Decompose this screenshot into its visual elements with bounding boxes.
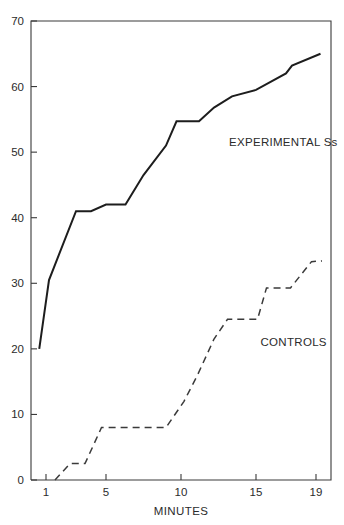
- y-tick-label-70: 70: [11, 15, 24, 27]
- y-axis-ticks: [31, 21, 37, 480]
- x-tick-label-19: 19: [310, 486, 323, 498]
- y-tick-label-0: 0: [18, 474, 24, 486]
- y-tick-label-20: 20: [11, 343, 24, 355]
- x-tick-label-10: 10: [175, 486, 188, 498]
- y-tick-label-60: 60: [11, 81, 24, 93]
- y-tick-label-30: 30: [11, 277, 24, 289]
- x-axis-title: MINUTES: [154, 505, 209, 517]
- series-line-experimental: [39, 54, 320, 349]
- x-tick-label-15: 15: [250, 486, 263, 498]
- line-chart-figure: 010203040506070 15101519 EXPERIMENTAL Ss…: [0, 0, 344, 525]
- plot-frame: [31, 21, 331, 480]
- y-axis-tick-labels: 010203040506070: [11, 15, 24, 486]
- series-label-experimental: EXPERIMENTAL Ss: [229, 136, 338, 148]
- y-tick-label-40: 40: [11, 212, 24, 224]
- x-axis-tick-labels: 15101519: [43, 486, 323, 498]
- x-tick-label-5: 5: [103, 486, 109, 498]
- x-axis-ticks: [46, 474, 316, 480]
- x-tick-label-1: 1: [43, 486, 49, 498]
- series-line-controls: [55, 261, 322, 480]
- y-tick-label-50: 50: [11, 146, 24, 158]
- chart-canvas: 010203040506070 15101519 EXPERIMENTAL Ss…: [0, 0, 344, 525]
- y-tick-label-10: 10: [11, 408, 24, 420]
- series-label-controls: CONTROLS: [261, 336, 327, 348]
